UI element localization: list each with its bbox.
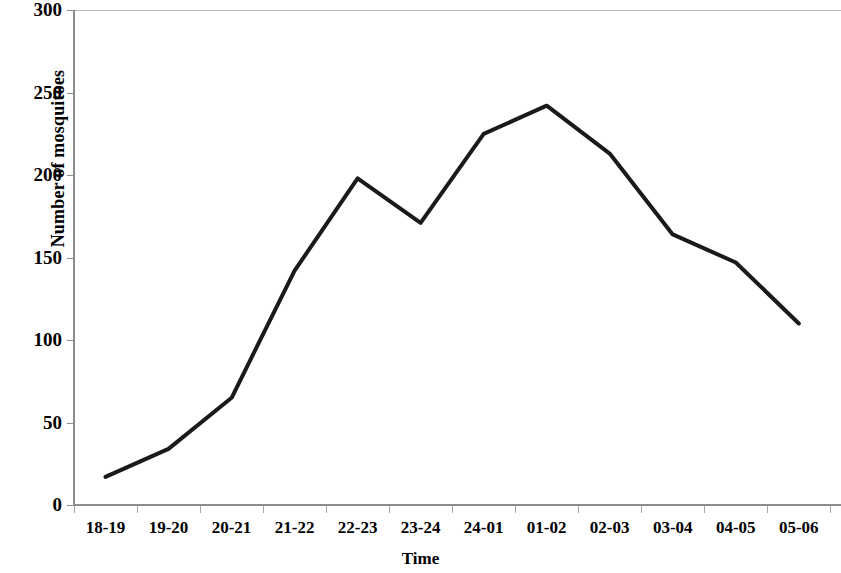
x-tick-mark [74,506,75,513]
x-tick-mark [641,506,642,513]
y-tick-label: 0 [8,495,62,514]
data-series-line [0,0,841,573]
y-tick-label: 100 [8,330,62,349]
x-tick-mark [137,506,138,513]
x-axis-title: Time [0,549,841,569]
y-tick-label: 150 [8,248,62,267]
y-tick-label: 300 [8,0,62,19]
x-tick-mark [263,506,264,513]
y-tick-mark [67,10,74,11]
chart-figure: Number of mosquitoes 050100150200250300 … [0,0,841,573]
x-tick-label: 05-06 [759,519,839,536]
y-tick-label: 50 [8,413,62,432]
y-axis-tick-labels: 050100150200250300 [0,0,62,573]
plot-top-border [74,10,841,11]
y-tick-mark [67,423,74,424]
x-tick-mark [200,506,201,513]
x-tick-mark [326,506,327,513]
x-tick-mark [767,506,768,513]
y-tick-mark [67,93,74,94]
x-tick-mark [452,506,453,513]
x-tick-mark [704,506,705,513]
x-tick-mark [578,506,579,513]
y-tick-label: 200 [8,165,62,184]
x-tick-mark [515,506,516,513]
x-tick-mark [830,506,831,513]
y-tick-label: 250 [8,83,62,102]
y-tick-mark [67,258,74,259]
y-tick-mark [67,505,74,506]
y-tick-mark [67,175,74,176]
x-tick-mark [389,506,390,513]
y-tick-mark [67,340,74,341]
x-axis-line [74,504,841,506]
